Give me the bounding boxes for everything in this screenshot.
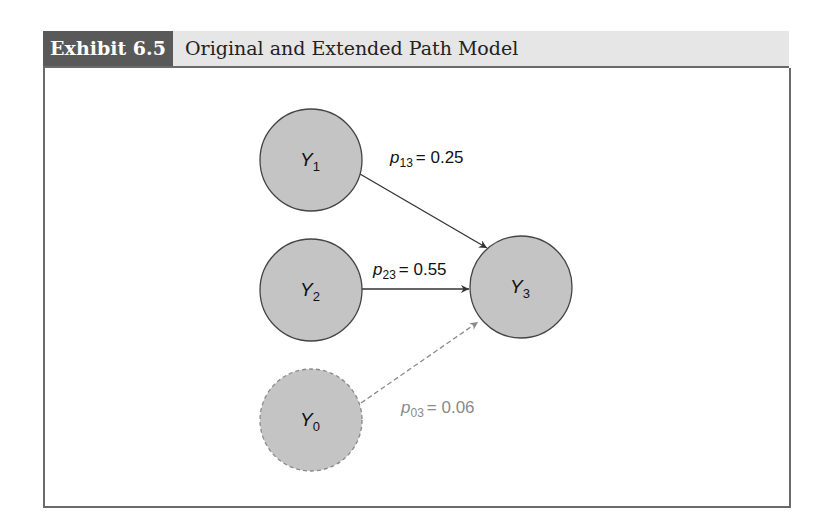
node-y1: Y1 — [260, 109, 362, 211]
edge-label-p13: p13= 0.25 — [389, 148, 464, 170]
edge-y1-y3 — [360, 174, 487, 248]
node-y0: Y0 — [260, 369, 362, 471]
node-y2: Y2 — [260, 239, 362, 341]
node-y3: Y3 — [470, 236, 572, 338]
edge-y0-y3 — [361, 322, 478, 403]
edge-label-p23: p23= 0.55 — [372, 260, 447, 282]
path-model-diagram: Y1 Y2 Y3 Y0 p13= 0.25 p23= 0.55 p03= 0.0… — [0, 0, 829, 530]
edge-label-p03: p03= 0.06 — [400, 398, 475, 420]
